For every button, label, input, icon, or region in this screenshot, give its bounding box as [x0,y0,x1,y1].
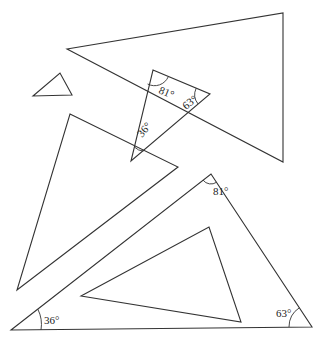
triangles-diagram: 81°63°36°81°36°63° [0,0,326,347]
angle-label: 36° [44,314,59,326]
triangle-small [33,73,72,96]
angle-arc-bot-81 [203,180,216,184]
triangle-inner [81,227,241,322]
triangle-left-large [17,114,178,290]
triangle-middle-labeled [131,70,210,161]
angle-arc-bot-36 [38,309,42,330]
angle-label: 81° [213,185,228,197]
triangle-large-top [67,13,283,162]
angle-label: 63° [276,307,291,319]
diagram-canvas: 81°63°36°81°36°63° [0,0,326,347]
